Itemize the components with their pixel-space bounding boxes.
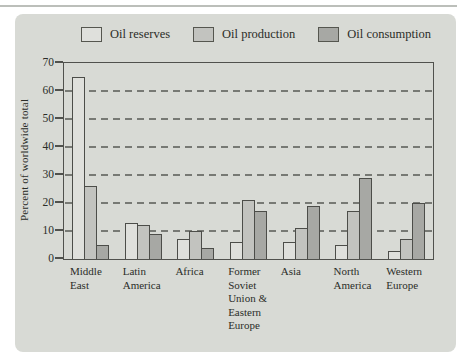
y-tick-label-50: 50: [10, 111, 54, 125]
bar: [412, 203, 425, 259]
page-rule: [0, 5, 457, 7]
y-tick-mark-10: [55, 229, 63, 231]
bar-group-africa: [169, 63, 222, 259]
figure-panel: Oil reserves Oil production Oil consumpt…: [15, 14, 456, 352]
y-tick-mark-20: [55, 201, 63, 203]
y-tick-label-0: 0: [10, 251, 54, 265]
bar-group-latin-america: [117, 63, 170, 259]
oil-reserves-swatch-icon: [81, 27, 102, 42]
bar: [201, 248, 214, 259]
y-tick-label-10: 10: [10, 223, 54, 237]
bar-group-former-soviet-union-eastern-europe: [222, 63, 275, 259]
bar-group-western-europe: [380, 63, 433, 259]
bar-group-north-america: [328, 63, 381, 259]
x-category-label: Africa: [175, 265, 203, 279]
x-category-label: North America: [334, 265, 372, 292]
x-category-label: Latin America: [123, 265, 161, 292]
y-tick-label-70: 70: [10, 55, 54, 69]
y-axis-ticks: 010203040506070: [15, 62, 59, 258]
bar: [149, 234, 162, 259]
x-category-label: Asia: [281, 265, 301, 279]
plot-area: [63, 62, 434, 260]
bar: [254, 211, 267, 259]
y-tick-label-20: 20: [10, 195, 54, 209]
y-tick-mark-40: [55, 145, 63, 147]
legend-item-oil-consumption: Oil consumption: [318, 27, 431, 42]
x-axis-labels: Middle EastLatin AmericaAfricaFormer Sov…: [63, 265, 432, 345]
bar: [96, 245, 109, 259]
x-category-label: Middle East: [70, 265, 102, 292]
bar: [307, 206, 320, 259]
y-tick-mark-70: [55, 61, 63, 63]
y-tick-label-30: 30: [10, 167, 54, 181]
legend-item-oil-production: Oil production: [193, 27, 295, 42]
y-tick-mark-0: [55, 257, 63, 259]
y-tick-mark-30: [55, 173, 63, 175]
bar-group-middle-east: [64, 63, 117, 259]
y-tick-label-40: 40: [10, 139, 54, 153]
legend-label-oil-production: Oil production: [222, 27, 295, 42]
x-category-label: Former Soviet Union & Eastern Europe: [228, 265, 267, 333]
y-tick-label-60: 60: [10, 83, 54, 97]
y-tick-mark-50: [55, 117, 63, 119]
bar-group-asia: [275, 63, 328, 259]
x-category-label: Western Europe: [386, 265, 422, 292]
legend-item-oil-reserves: Oil reserves: [81, 27, 170, 42]
legend-label-oil-reserves: Oil reserves: [110, 27, 170, 42]
y-tick-mark-60: [55, 89, 63, 91]
legend-label-oil-consumption: Oil consumption: [347, 27, 431, 42]
bar: [359, 178, 372, 259]
oil-production-swatch-icon: [193, 27, 214, 42]
oil-consumption-swatch-icon: [318, 27, 339, 42]
chart-legend: Oil reserves Oil production Oil consumpt…: [81, 27, 454, 42]
